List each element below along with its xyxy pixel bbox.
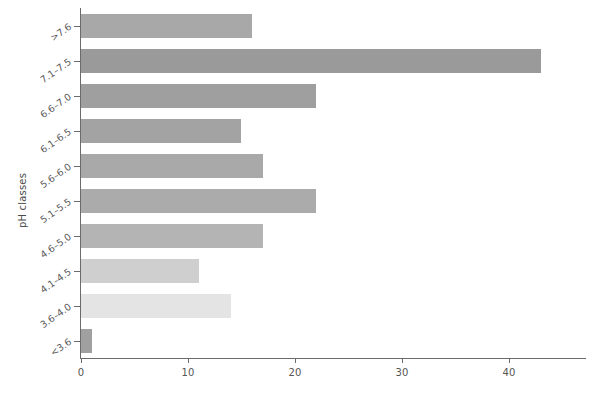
bar	[81, 329, 92, 353]
bar	[81, 119, 241, 143]
y-axis-tick-label-text: 4.1–4.5	[38, 265, 73, 294]
bar-fill	[81, 294, 231, 318]
y-axis-tick	[74, 61, 81, 62]
y-axis-tick-label: 6.6–7.0	[0, 96, 73, 97]
y-axis-tick-label: 3.6–4.0	[0, 306, 73, 307]
y-axis-tick	[74, 131, 81, 132]
plot-area	[81, 8, 586, 358]
y-axis-tick-label-text: >7.6	[48, 20, 73, 42]
bar	[81, 84, 316, 108]
x-axis-tick-label: 10	[182, 367, 195, 378]
y-axis-tick-label: 6.1–6.5	[0, 131, 73, 132]
x-axis-tick	[509, 358, 510, 363]
x-axis-tick	[81, 358, 82, 363]
y-axis-tick-label: 7.1–7.5	[0, 61, 73, 62]
y-axis-tick	[74, 96, 81, 97]
bar	[81, 154, 263, 178]
bar-fill	[81, 84, 316, 108]
y-axis-tick-label: 4.1–4.5	[0, 271, 73, 272]
y-axis-tick-label-text: 7.1–7.5	[38, 55, 73, 84]
bar-fill	[81, 14, 252, 38]
x-axis-tick	[295, 358, 296, 363]
bar	[81, 14, 252, 38]
y-axis-tick-label: 4.6–5.0	[0, 236, 73, 237]
y-axis-tick-label: 5.6–6.0	[0, 166, 73, 167]
bar-fill	[81, 49, 541, 73]
y-axis-tick-label-text: 6.1–6.5	[38, 125, 73, 154]
bar-fill	[81, 189, 316, 213]
bar-fill	[81, 154, 263, 178]
y-axis-tick-label-text: 5.6–6.0	[38, 160, 73, 189]
y-axis-tick-label-text: <3.6	[48, 335, 73, 357]
y-axis-tick-label-text: 5.1–5.5	[38, 195, 73, 224]
x-axis-tick-label: 20	[289, 367, 302, 378]
bar-fill	[81, 329, 92, 353]
y-axis-tick	[74, 26, 81, 27]
x-axis-tick	[402, 358, 403, 363]
y-axis-tick	[74, 306, 81, 307]
x-axis-line	[80, 358, 586, 359]
bar	[81, 189, 316, 213]
bar-chart: pH classes >7.67.1–7.56.6–7.06.1–6.55.6–…	[0, 0, 592, 401]
y-axis-tick-label-text: 4.6–5.0	[38, 230, 73, 259]
y-axis-tick-label: <3.6	[0, 341, 73, 342]
y-axis-tick	[74, 341, 81, 342]
bar-fill	[81, 259, 199, 283]
y-axis-tick-label-text: 6.6–7.0	[38, 90, 73, 119]
y-axis-tick	[74, 166, 81, 167]
y-axis-tick	[74, 236, 81, 237]
y-axis-tick-label-text: 3.6–4.0	[38, 300, 73, 329]
bar	[81, 49, 541, 73]
bar-fill	[81, 119, 241, 143]
x-axis-tick-label: 30	[396, 367, 409, 378]
y-axis-tick	[74, 271, 81, 272]
x-axis-tick	[188, 358, 189, 363]
bar	[81, 294, 231, 318]
x-axis-tick-label: 0	[78, 367, 84, 378]
y-axis-tick-label: >7.6	[0, 26, 73, 27]
x-axis-tick-label: 40	[503, 367, 516, 378]
bar	[81, 259, 199, 283]
y-axis-tick	[74, 201, 81, 202]
y-axis-tick-label: 5.1–5.5	[0, 201, 73, 202]
bar-fill	[81, 224, 263, 248]
bar	[81, 224, 263, 248]
